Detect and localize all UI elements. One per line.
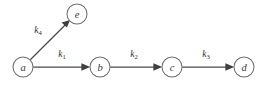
scheme-canvas: k4 k1 k2 k3 a e b: [0, 0, 272, 85]
edge-a-to-b-arrowhead: [81, 63, 90, 70]
reaction-scheme-diagram: k4 k1 k2 k3 a e b: [0, 0, 272, 85]
rate-label-k3-subscript: 3: [206, 53, 210, 60]
node-d[interactable]: d: [234, 57, 254, 77]
edge-a-to-b: [33, 63, 90, 70]
rate-label-k4: k4: [34, 25, 42, 36]
node-c[interactable]: c: [162, 57, 182, 77]
edge-c-to-d: [182, 63, 234, 70]
node-a[interactable]: a: [13, 57, 33, 77]
edge-layer: [30, 20, 234, 71]
rate-label-k1: k1: [58, 49, 66, 60]
node-b-label: b: [97, 62, 102, 73]
node-b[interactable]: b: [90, 57, 110, 77]
rate-label-k4-subscript: 4: [38, 29, 42, 36]
node-d-label: d: [241, 62, 247, 73]
rate-label-k3: k3: [202, 49, 210, 60]
node-a-label: a: [20, 62, 25, 73]
node-c-label: c: [170, 62, 175, 73]
edge-b-to-c-arrowhead: [153, 63, 162, 70]
rate-label-k1-subscript: 1: [62, 53, 65, 60]
node-e-label: e: [75, 9, 80, 20]
rate-label-k2-subscript: 2: [134, 53, 137, 60]
node-e[interactable]: e: [67, 4, 87, 24]
edge-c-to-d-arrowhead: [225, 63, 234, 70]
edge-b-to-c: [110, 63, 162, 70]
rate-label-k2: k2: [130, 49, 138, 60]
